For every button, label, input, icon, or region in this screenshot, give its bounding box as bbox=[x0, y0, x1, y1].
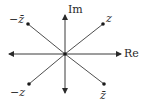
point-z bbox=[101, 22, 105, 26]
label-conj-z: z̄ bbox=[99, 89, 106, 102]
point-neg-z bbox=[27, 82, 31, 86]
ray-z bbox=[65, 24, 103, 54]
imag-axis-label: Im bbox=[68, 3, 83, 16]
complex-plane-diagram: Im Re z −z̄ −z z̄ bbox=[0, 0, 147, 105]
label-neg-conj-z: −z̄ bbox=[9, 13, 24, 26]
ray-neg-conj-z bbox=[28, 24, 65, 54]
point-neg-conj-z bbox=[26, 22, 30, 26]
label-z: z bbox=[105, 12, 112, 25]
label-neg-z: −z bbox=[10, 86, 25, 99]
origin-point bbox=[63, 52, 67, 56]
point-conj-z bbox=[102, 82, 106, 86]
ray-neg-z bbox=[29, 54, 65, 84]
ray-conj-z bbox=[65, 54, 104, 84]
real-axis-label: Re bbox=[124, 47, 139, 60]
